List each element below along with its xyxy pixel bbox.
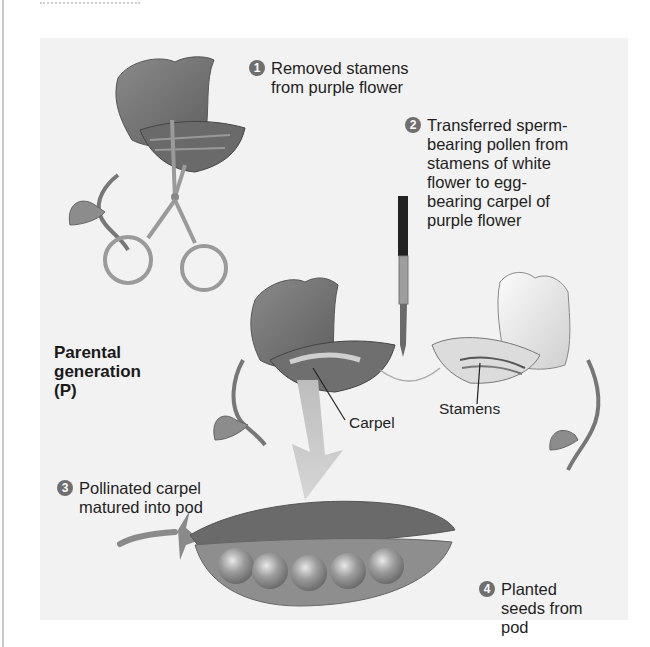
step-3-badge: 3 — [57, 480, 73, 496]
parental-generation-label: Parental generation (P) — [54, 343, 141, 400]
step-3-text: Pollinated carpel matured into pod — [57, 479, 203, 517]
step-1-badge: 1 — [249, 60, 265, 76]
pollen-path — [380, 368, 440, 381]
step-2-text: Transferred sperm- bearing pollen from s… — [405, 116, 568, 230]
maturation-arrow-icon — [292, 380, 343, 500]
step-2-badge: 2 — [405, 117, 421, 133]
step-1: 1 Removed stamens from purple flower — [249, 59, 409, 97]
purple-flower-with-scissors-icon — [69, 57, 245, 290]
carpel-callout: Carpel — [349, 414, 395, 432]
step-2: 2 Transferred sperm- bearing pollen from… — [405, 116, 568, 230]
step-1-text: Removed stamens from purple flower — [249, 59, 409, 97]
white-flower-icon — [432, 272, 598, 470]
step-3: 3 Pollinated carpel matured into pod — [57, 479, 203, 517]
step-4: 4 Planted seeds from pod — [479, 580, 583, 637]
step-4-badge: 4 — [479, 581, 495, 597]
diagram-illustration — [0, 0, 650, 647]
stamens-callout: Stamens — [439, 400, 500, 418]
